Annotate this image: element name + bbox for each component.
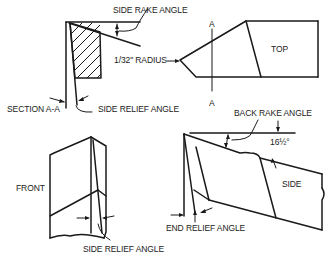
front-view-diagonal-2	[98, 190, 106, 196]
relief-flank-line	[70, 23, 77, 105]
section-a-a-label: SECTION A-A	[7, 104, 60, 114]
arrow-icon	[226, 134, 230, 139]
radius-label: 1/32" RADIUS	[114, 55, 167, 65]
side-break-edge	[322, 188, 324, 230]
side-view: BACK RAKE ANGLE 16½° SIDE END RELIEF ANG…	[166, 108, 324, 233]
back-rake-value-label: 16½°	[270, 137, 290, 147]
front-view-left-edge	[50, 137, 91, 238]
top-view-edge	[246, 21, 261, 77]
arrow-icon	[115, 24, 119, 29]
section-a-a-view: SIDE RAKE ANGLE SECTION A-A SIDE RELIEF …	[7, 5, 188, 114]
side-relief-angle-label-front: SIDE RELIEF ANGLE	[83, 244, 164, 254]
section-marker-bottom: A	[209, 98, 215, 108]
arrow-icon	[193, 210, 197, 215]
arrow-icon	[200, 209, 206, 213]
end-relief-angle-label: END RELIEF ANGLE	[166, 223, 246, 233]
side-view-edge	[260, 158, 276, 218]
front-view-right-edge	[91, 137, 106, 238]
end-flank-line-1	[184, 134, 195, 213]
rake-face-outline	[184, 134, 322, 174]
arrow-icon	[175, 59, 180, 63]
top-view-label: TOP	[271, 44, 288, 54]
front-view: FRONT SIDE RELIEF ANGLE	[16, 137, 164, 254]
cutting-tool-angles-diagram: SIDE RAKE ANGLE SECTION A-A SIDE RELIEF …	[0, 0, 334, 257]
back-rake-angle-label: BACK RAKE ANGLE	[234, 108, 312, 118]
arrow-icon	[85, 216, 90, 220]
front-view-break-line	[50, 234, 104, 238]
side-relief-angle-label-section: SIDE RELIEF ANGLE	[98, 104, 179, 114]
side-rake-angle-label: SIDE RAKE ANGLE	[113, 5, 188, 15]
side-relief-leader	[76, 106, 92, 112]
arrow-icon	[78, 97, 84, 101]
side-view-label: SIDE	[282, 179, 302, 189]
back-rake-leader	[232, 120, 258, 140]
front-view-label: FRONT	[16, 183, 45, 193]
section-marker-top: A	[209, 19, 215, 29]
arrow-icon	[115, 31, 119, 36]
arrow-icon	[102, 216, 107, 220]
top-view: A A TOP	[167, 19, 318, 108]
front-view-relief-edge	[93, 140, 102, 233]
arrow-icon	[276, 127, 280, 132]
